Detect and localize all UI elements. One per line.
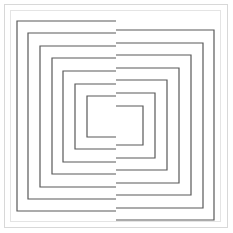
inner-frame-border — [11, 11, 221, 222]
nested-rectangles-figure — [0, 0, 233, 233]
figure-canvas — [0, 0, 233, 233]
